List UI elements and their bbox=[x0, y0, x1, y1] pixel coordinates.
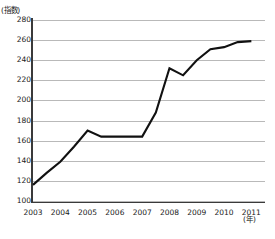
y-axis-tick-label: 100 bbox=[3, 197, 31, 205]
line-series-path bbox=[33, 41, 251, 185]
y-axis-tick-label: 160 bbox=[3, 137, 31, 145]
x-axis-tick-label: 2003 bbox=[20, 209, 46, 217]
x-axis-tick-label: 2005 bbox=[75, 209, 101, 217]
x-axis-tick-label: 2004 bbox=[47, 209, 73, 217]
x-axis-tick-label: 2010 bbox=[211, 209, 237, 217]
y-axis-tick-label: 120 bbox=[3, 177, 31, 185]
chart-page: (指数) (年) 280260240220200180160140120100 … bbox=[0, 0, 275, 239]
y-axis-tick-label: 260 bbox=[3, 36, 31, 44]
y-axis-tick-label: 220 bbox=[3, 76, 31, 84]
x-axis-tick-label: 2006 bbox=[102, 209, 128, 217]
y-axis-tick-label: 280 bbox=[3, 16, 31, 24]
x-axis-tick-label: 2008 bbox=[156, 209, 182, 217]
gridline bbox=[33, 201, 265, 202]
x-axis-tick-label: 2011 bbox=[238, 209, 264, 217]
y-axis-tick-label: 200 bbox=[3, 96, 31, 104]
y-axis-tick-label: 240 bbox=[3, 56, 31, 64]
x-axis-tick-label: 2009 bbox=[184, 209, 210, 217]
y-axis-tick-label: 140 bbox=[3, 157, 31, 165]
y-axis-tick-labels: 280260240220200180160140120100 bbox=[0, 0, 31, 239]
line-series-chart bbox=[33, 20, 265, 201]
x-axis-tick-label: 2007 bbox=[129, 209, 155, 217]
plot-area bbox=[33, 20, 265, 201]
y-axis-tick-label: 180 bbox=[3, 117, 31, 125]
